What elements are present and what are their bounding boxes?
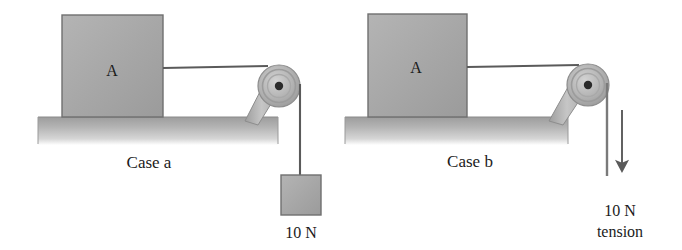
case-b-pulley [567, 64, 609, 106]
case-b-force-label-line2: tension [597, 223, 643, 240]
case-a-table [38, 117, 278, 145]
case-b-block: A [368, 14, 467, 117]
case-a-label: Case a [127, 153, 172, 172]
case-a-force-label: 10 N [285, 224, 317, 241]
physics-diagram: A Case a 10 N A [0, 0, 682, 250]
case-b-group: A Case b 10 N tension [345, 14, 643, 240]
case-b-table [345, 117, 568, 145]
case-a-block: A [62, 15, 163, 117]
case-a-rope-horizontal [163, 66, 268, 68]
case-a-pulley [258, 65, 300, 107]
physics-figure-container: A Case a 10 N A [0, 0, 682, 250]
case-a-hanging-weight [281, 175, 321, 215]
case-a-block-label: A [106, 62, 118, 79]
case-b-label: Case b [447, 152, 493, 171]
case-a-group: A Case a 10 N [38, 15, 321, 241]
case-b-block-label: A [410, 59, 422, 76]
case-b-rope-horizontal [467, 65, 579, 67]
case-b-force-label: 10 N [604, 202, 636, 219]
